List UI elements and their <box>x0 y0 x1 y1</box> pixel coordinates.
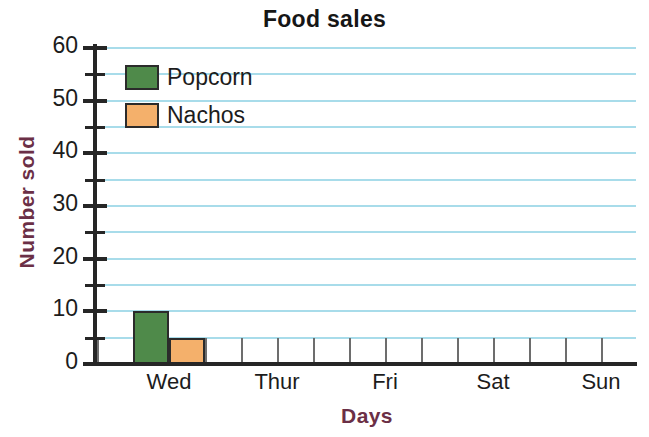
y-axis-tick-label: 20 <box>18 243 78 270</box>
y-axis-tick-minor <box>85 231 105 234</box>
x-axis-label-thur: Thur <box>217 369 337 395</box>
gridline <box>97 152 636 154</box>
bar-popcorn-wed <box>133 311 169 364</box>
y-axis-tick-major <box>83 309 107 313</box>
y-axis-tick-major <box>83 46 107 50</box>
bar-nachos-wed <box>169 338 205 364</box>
slot-divider <box>385 338 387 364</box>
gridline <box>97 284 636 286</box>
slot-divider <box>565 338 567 364</box>
gridline <box>97 258 636 260</box>
slot-divider <box>241 338 243 364</box>
y-axis-tick-major <box>83 99 107 103</box>
x-axis-title: Days <box>97 404 637 428</box>
y-axis-tick-major <box>83 362 107 366</box>
slot-divider <box>457 338 459 364</box>
y-axis-tick-label: 60 <box>18 32 78 59</box>
y-axis-tick-label: 30 <box>18 190 78 217</box>
gridline <box>97 205 636 207</box>
legend-label-nachos: Nachos <box>167 102 245 129</box>
slot-divider <box>277 338 279 364</box>
y-axis-tick-major <box>83 204 107 208</box>
gridline <box>97 47 636 49</box>
gridline <box>97 231 636 233</box>
y-axis-tick-label: 40 <box>18 137 78 164</box>
legend: PopcornNachos <box>125 60 253 136</box>
legend-swatch-nachos <box>125 103 159 128</box>
chart-title: Food sales <box>0 6 649 33</box>
y-axis-tick-minor <box>85 179 105 182</box>
y-axis-tick-major <box>83 151 107 155</box>
y-axis-tick-label: 10 <box>18 295 78 322</box>
y-axis-tick-minor <box>85 73 105 76</box>
gridline <box>97 179 636 181</box>
x-axis-label-wed: Wed <box>109 369 229 395</box>
slot-divider <box>529 338 531 364</box>
legend-item-nachos: Nachos <box>125 98 253 132</box>
y-axis-tick-minor <box>85 284 105 287</box>
legend-swatch-popcorn <box>125 65 159 90</box>
x-axis-label-sat: Sat <box>433 369 553 395</box>
y-axis-tick-label: 0 <box>18 348 78 375</box>
y-axis-tick-major <box>83 257 107 261</box>
x-axis-label-sun: Sun <box>541 369 649 395</box>
y-axis-tick-minor <box>85 126 105 129</box>
bar-chart: Food sales Number sold Days 010203040506… <box>0 0 649 437</box>
x-axis-label-fri: Fri <box>325 369 445 395</box>
y-axis-tick-label: 50 <box>18 85 78 112</box>
y-axis-tick-minor <box>85 337 105 340</box>
slot-divider <box>493 338 495 364</box>
slot-divider <box>97 338 99 364</box>
slot-divider <box>349 338 351 364</box>
slot-divider <box>205 338 207 364</box>
legend-label-popcorn: Popcorn <box>167 64 253 91</box>
slot-divider <box>313 338 315 364</box>
x-axis-line <box>93 362 637 366</box>
legend-item-popcorn: Popcorn <box>125 60 253 94</box>
slot-divider <box>421 338 423 364</box>
slot-divider <box>601 338 603 364</box>
gridline <box>97 310 636 312</box>
